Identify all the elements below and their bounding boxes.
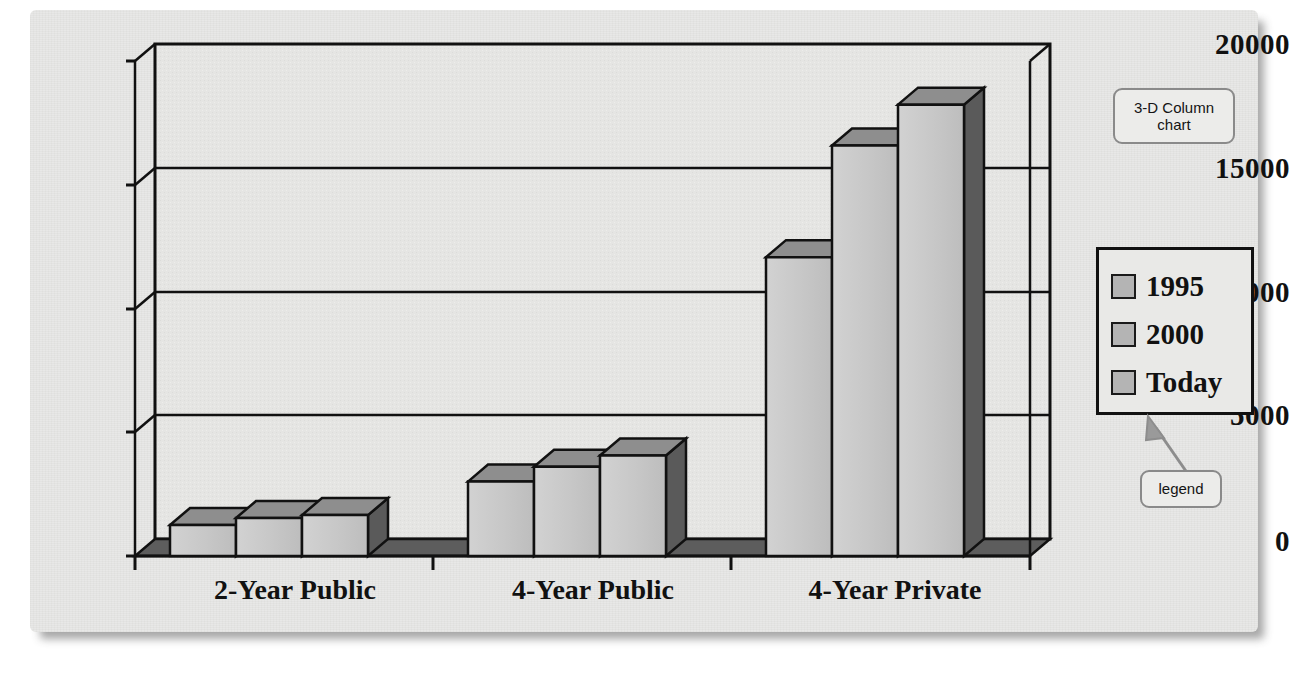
callout-chart-type: 3-D Column chart bbox=[1113, 88, 1235, 144]
x-axis bbox=[135, 556, 1030, 570]
legend-label-today: Today bbox=[1146, 368, 1222, 397]
chart-plot-area: 20000 15000 10000 5000 0 2-Year Public 4… bbox=[0, 0, 1290, 675]
legend-label-2000: 2000 bbox=[1146, 320, 1204, 349]
bar-4-year-private-today bbox=[898, 88, 984, 556]
legend-swatch-2000 bbox=[1111, 322, 1136, 347]
legend-label-1995: 1995 bbox=[1146, 272, 1204, 301]
legend-item-2000[interactable]: 2000 bbox=[1111, 310, 1251, 358]
y-tick-label-0: 0 bbox=[1160, 527, 1290, 556]
y-tick-label-20000: 20000 bbox=[1160, 30, 1290, 59]
callout-legend: legend bbox=[1140, 470, 1222, 508]
legend-item-1995[interactable]: 1995 bbox=[1111, 262, 1251, 310]
x-category-label-4-year-private: 4-Year Private bbox=[750, 576, 1040, 604]
y-tick-label-15000: 15000 bbox=[1160, 154, 1290, 183]
chart-legend: 1995 2000 Today bbox=[1096, 247, 1254, 415]
x-category-label-4-year-public: 4-Year Public bbox=[453, 576, 733, 604]
legend-swatch-1995 bbox=[1111, 274, 1136, 299]
bar-2-year-public-today bbox=[302, 498, 388, 556]
legend-swatch-today bbox=[1111, 370, 1136, 395]
y-axis-ticks bbox=[126, 61, 135, 556]
x-category-label-2-year-public: 2-Year Public bbox=[155, 576, 435, 604]
bar-4-year-public-today bbox=[600, 439, 686, 556]
legend-item-today[interactable]: Today bbox=[1111, 358, 1251, 406]
